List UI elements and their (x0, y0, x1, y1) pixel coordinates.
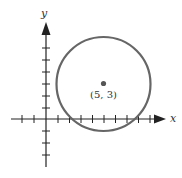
y-axis-arrow-icon (42, 22, 51, 35)
x-axis-arrow-icon (154, 115, 166, 124)
x-axis: x (11, 112, 177, 125)
circle-diagram: x y (5, 3) (0, 0, 182, 178)
x-axis-label: x (170, 112, 177, 125)
y-axis-label: y (40, 7, 48, 20)
center-point (101, 81, 106, 86)
center-label: (5, 3) (90, 89, 117, 100)
y-axis: y (40, 7, 51, 167)
